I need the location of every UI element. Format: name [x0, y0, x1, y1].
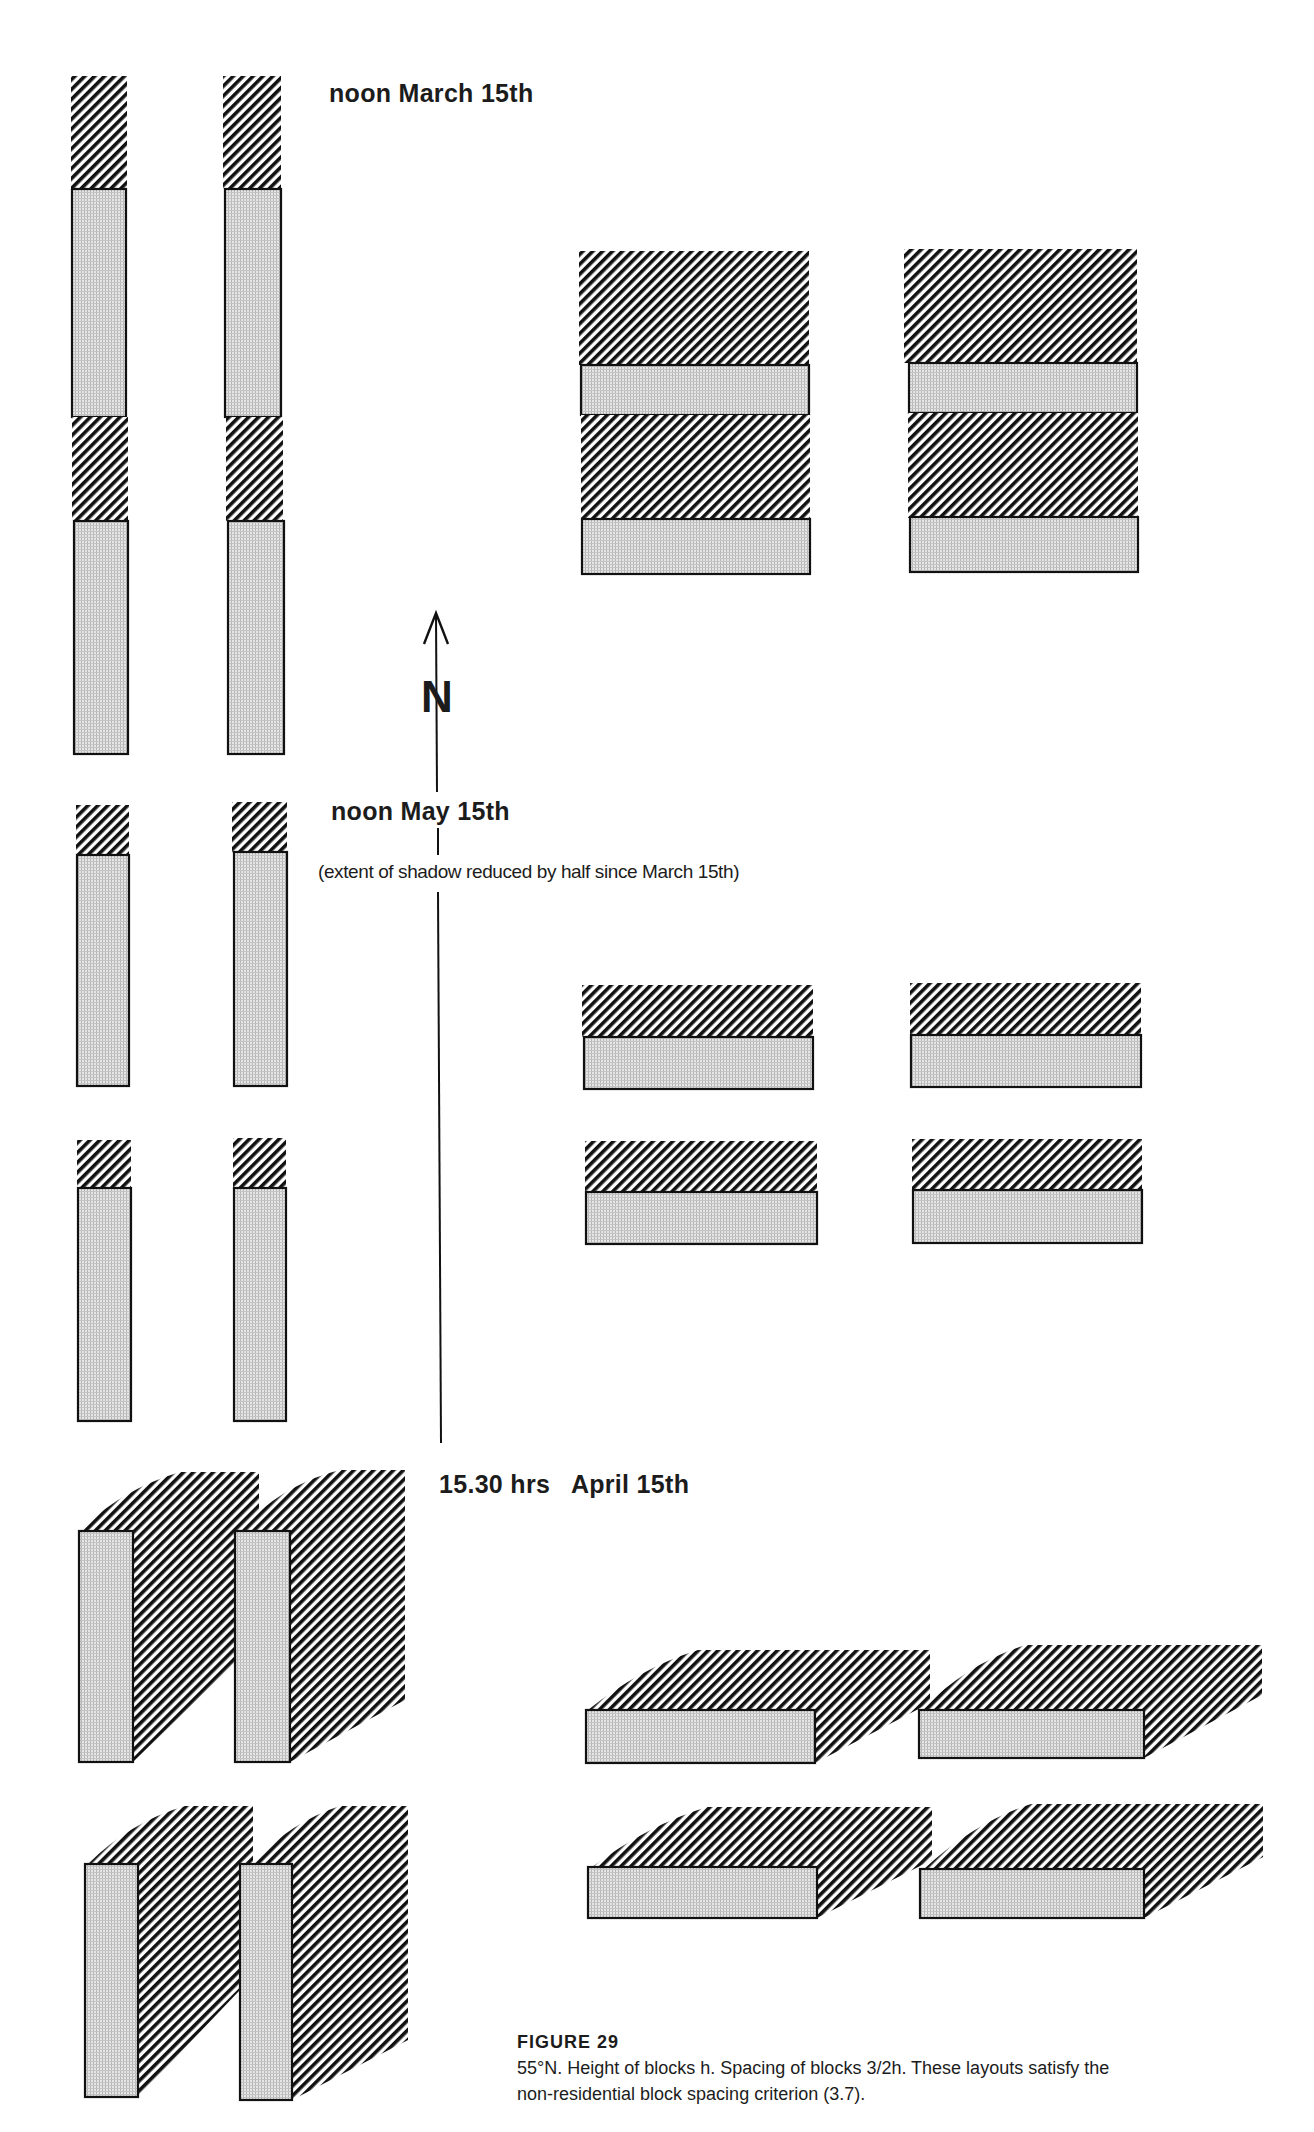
label-april: 15.30 hrs April 15th: [439, 1470, 689, 1499]
building-block: [920, 1869, 1144, 1918]
building-block: [228, 521, 284, 754]
building-block: [584, 1037, 813, 1089]
shadow-area: [77, 1140, 131, 1189]
shadow-area: [76, 805, 129, 856]
label-march: noon March 15th: [329, 79, 534, 108]
shadow-diagram: [0, 0, 1314, 2132]
shadow-area: [904, 249, 1137, 363]
building-block: [581, 365, 809, 415]
building-block: [74, 521, 128, 754]
shadow-area: [908, 413, 1138, 518]
shadow-area: [585, 1141, 817, 1193]
building-block: [586, 1710, 815, 1763]
building-block: [910, 517, 1138, 572]
shadow-area: [579, 251, 809, 365]
may-ns-layout: [76, 802, 287, 1421]
shadow-area: [912, 1139, 1142, 1191]
caption-title: FIGURE 29: [517, 2031, 1277, 2053]
building-block: [235, 1531, 290, 1762]
shadow-area: [71, 76, 127, 190]
march-ew-layout: [579, 249, 1138, 574]
shadow-area: [582, 985, 813, 1038]
building-block: [582, 519, 810, 574]
label-may: noon May 15th: [331, 797, 512, 826]
building-block: [919, 1710, 1144, 1758]
building-block: [911, 1035, 1141, 1087]
building-block: [240, 1864, 292, 2100]
building-block: [77, 855, 129, 1086]
april-ew-layout: [586, 1645, 1263, 1918]
building-block: [909, 363, 1137, 413]
building-block: [78, 1188, 131, 1421]
building-block: [79, 1531, 133, 1762]
building-block: [586, 1192, 817, 1244]
caption-line-1: 55°N. Height of blocks h. Spacing of blo…: [517, 2055, 1277, 2081]
north-label: N: [421, 675, 453, 719]
building-block: [234, 1188, 286, 1421]
building-block: [234, 852, 287, 1086]
shadow-area: [581, 415, 810, 520]
shadow-area: [226, 417, 283, 521]
shadow-area: [232, 802, 287, 853]
building-block: [85, 1864, 138, 2097]
figure-caption: FIGURE 29 55°N. Height of blocks h. Spac…: [517, 2031, 1277, 2107]
shadow-area: [223, 76, 281, 190]
may-ew-layout: [582, 983, 1142, 1244]
building-block: [72, 189, 126, 417]
label-may-note: (extent of shadow reduced by half since …: [318, 861, 739, 883]
building-block: [913, 1190, 1142, 1243]
april-ns-layout: [79, 1470, 408, 2100]
shadow-area: [72, 417, 128, 521]
building-block: [588, 1867, 817, 1918]
shadow-area: [910, 983, 1141, 1036]
march-ns-layout: [71, 76, 284, 754]
caption-line-2: non-residential block spacing criterion …: [517, 2081, 1277, 2107]
north-arrow: [424, 613, 448, 1443]
building-block: [225, 189, 281, 417]
shadow-area: [233, 1138, 286, 1189]
